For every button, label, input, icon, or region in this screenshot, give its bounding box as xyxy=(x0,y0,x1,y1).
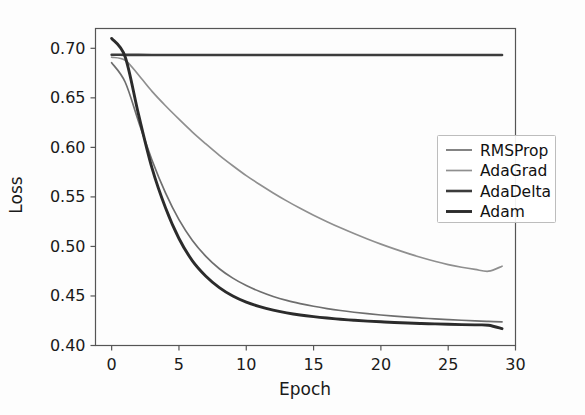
loss-vs-epoch-chart: 0.400.450.500.550.600.650.70 05101520253… xyxy=(0,0,585,415)
x-tick-label: 15 xyxy=(303,355,323,374)
y-axis-ticks: 0.400.450.500.550.600.650.70 xyxy=(50,39,96,355)
x-tick-label: 25 xyxy=(438,355,458,374)
legend-label-rmsprop: RMSProp xyxy=(480,142,548,160)
x-tick-label: 10 xyxy=(236,355,256,374)
y-tick-label: 0.70 xyxy=(50,39,86,58)
x-tick-label: 20 xyxy=(371,355,391,374)
y-tick-label: 0.55 xyxy=(50,187,86,206)
y-tick-label: 0.40 xyxy=(50,336,86,355)
x-tick-label: 0 xyxy=(107,355,117,374)
legend-label-adagrad: AdaGrad xyxy=(480,162,547,180)
y-tick-label: 0.50 xyxy=(50,237,86,256)
x-tick-label: 30 xyxy=(505,355,525,374)
figure-canvas: 0.400.450.500.550.600.650.70 05101520253… xyxy=(0,0,585,415)
y-tick-label: 0.65 xyxy=(50,88,86,107)
y-tick-label: 0.45 xyxy=(50,286,86,305)
y-axis-title: Loss xyxy=(6,176,26,213)
x-tick-label: 5 xyxy=(174,355,184,374)
legend-label-adadelta: AdaDelta xyxy=(480,183,551,201)
legend-label-adam: Adam xyxy=(480,203,525,221)
y-tick-label: 0.60 xyxy=(50,138,86,157)
x-axis-ticks: 051015202530 xyxy=(107,346,526,374)
x-axis-title: Epoch xyxy=(279,379,331,399)
legend[interactable]: RMSPropAdaGradAdaDeltaAdam xyxy=(438,136,556,223)
